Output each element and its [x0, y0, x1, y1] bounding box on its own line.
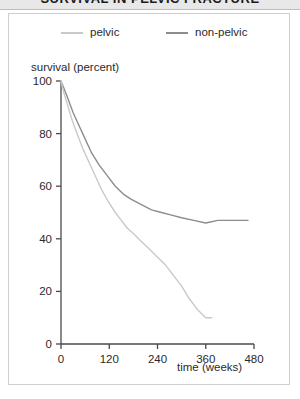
y-tick-label: 100	[33, 75, 52, 87]
x-tick-label: 240	[148, 353, 167, 365]
axis-lines	[61, 81, 254, 344]
y-tick-label: 80	[39, 128, 52, 140]
y-tick-label: 20	[39, 285, 52, 297]
figure-panel: pelvic non-pelvic survival (percent) tim…	[8, 13, 290, 385]
x-tick-label: 360	[196, 353, 215, 365]
x-axis-ticks: 0120240360480	[58, 344, 264, 365]
figure-title-strip: SURVIVAL IN PELVIC FRACTURE	[0, 0, 300, 10]
x-tick-label: 480	[244, 353, 263, 365]
x-tick-label: 120	[100, 353, 119, 365]
survival-plot: 020406080100 0120240360480	[9, 14, 291, 386]
y-axis-ticks: 020406080100	[33, 75, 61, 350]
series-line-non-pelvic	[61, 81, 248, 223]
y-tick-label: 60	[39, 180, 52, 192]
series-line-pelvic	[61, 81, 212, 318]
series-paths	[61, 81, 248, 318]
page-title: SURVIVAL IN PELVIC FRACTURE	[40, 0, 259, 6]
x-tick-label: 0	[58, 353, 64, 365]
y-tick-label: 0	[46, 338, 52, 350]
y-tick-label: 40	[39, 233, 52, 245]
